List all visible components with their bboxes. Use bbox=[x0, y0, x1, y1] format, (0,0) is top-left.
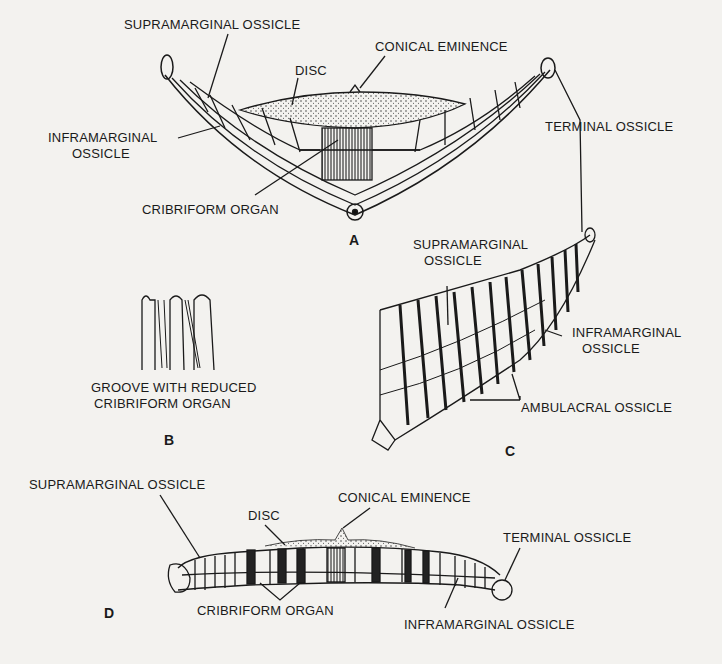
label-c-inframarginal-1: INFRAMARGINAL bbox=[572, 325, 682, 340]
label-c-supramarginal-2: OSSICLE bbox=[424, 253, 482, 268]
label-a-cribriform-organ: CRIBRIFORM ORGAN bbox=[142, 202, 279, 217]
figure-b-drawing bbox=[142, 295, 214, 370]
label-b-line1: GROOVE WITH REDUCED bbox=[91, 380, 257, 395]
label-b-line2: CRIBRIFORM ORGAN bbox=[94, 396, 231, 411]
label-d-terminal-ossicle: TERMINAL OSSICLE bbox=[503, 530, 631, 545]
figure-c-drawing bbox=[372, 228, 595, 450]
label-c-inframarginal-2: OSSICLE bbox=[582, 341, 640, 356]
label-c-supramarginal-1: SUPRAMARGINAL bbox=[413, 237, 528, 252]
figure-letter-a: A bbox=[349, 232, 359, 248]
figure-letter-d: D bbox=[104, 605, 114, 621]
label-c-ambulacral: AMBULACRAL OSSICLE bbox=[521, 400, 672, 415]
label-a-supramarginal: SUPRAMARGINAL OSSICLE bbox=[124, 17, 300, 32]
figure-letter-c: C bbox=[505, 443, 515, 459]
label-a-conical-eminence: CONICAL EMINENCE bbox=[375, 39, 508, 54]
label-d-supramarginal: SUPRAMARGINAL OSSICLE bbox=[29, 477, 205, 492]
label-d-cribriform-organ: CRIBRIFORM ORGAN bbox=[197, 603, 334, 618]
label-a-inframarginal-1: INFRAMARGINAL bbox=[48, 130, 158, 145]
label-a-inframarginal-2: OSSICLE bbox=[72, 146, 130, 161]
label-d-inframarginal: INFRAMARGINAL OSSICLE bbox=[404, 617, 575, 632]
figure-letter-b: B bbox=[164, 432, 174, 448]
label-d-disc: DISC bbox=[248, 508, 280, 523]
figure-d-drawing bbox=[160, 495, 520, 608]
label-a-disc: DISC bbox=[295, 63, 327, 78]
label-a-terminal-ossicle: TERMINAL OSSICLE bbox=[545, 119, 673, 134]
label-d-conical-eminence: CONICAL EMINENCE bbox=[338, 490, 471, 505]
